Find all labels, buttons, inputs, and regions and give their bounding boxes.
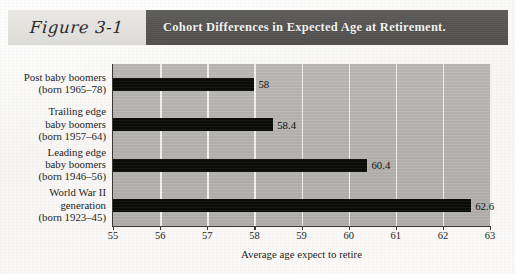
category-label: Leading edgebaby boomers(born 1946–56) <box>39 146 106 183</box>
y-axis-category-labels: Post baby boomers(born 1965–78)Trailing … <box>0 64 110 226</box>
bar-value-label: 58.4 <box>277 120 296 131</box>
x-tick-mark <box>396 226 397 230</box>
category-label-line: Leading edge <box>39 146 106 158</box>
category-label-line: (born 1923–45) <box>39 211 106 223</box>
x-tick-mark <box>443 226 444 230</box>
category-label-line: Trailing edge <box>39 105 106 117</box>
plot-area: 5858.460.462.6 <box>113 64 490 226</box>
category-label: Post baby boomers(born 1965–78) <box>24 71 106 95</box>
category-label: World War IIgeneration(born 1923–45) <box>39 186 106 223</box>
x-tick-mark <box>490 226 491 230</box>
category-label-line: (born 1965–78) <box>24 83 106 95</box>
figure-title-box: Cohort Differences in Expected Age at Re… <box>146 10 508 45</box>
bar <box>113 159 367 172</box>
category-label-line: World War II <box>39 186 106 198</box>
x-axis-title: Average age expect to retire <box>113 248 490 260</box>
x-tick-label: 61 <box>391 231 402 242</box>
category-label-line: baby boomers <box>39 118 106 130</box>
x-tick-label: 62 <box>438 231 449 242</box>
x-tick-mark <box>113 226 114 230</box>
bar-value-label: 58 <box>258 79 269 90</box>
category-label-line: generation <box>39 199 106 211</box>
category-label-line: baby boomers <box>39 158 106 170</box>
x-tick-mark <box>302 226 303 230</box>
x-tick-label: 56 <box>155 231 166 242</box>
bar-value-label: 62.6 <box>475 201 494 212</box>
x-tick-label: 58 <box>249 231 260 242</box>
x-tick-mark <box>160 226 161 230</box>
figure-header-band: Figure 3-1 Cohort Differences in Expecte… <box>8 10 508 45</box>
x-tick-mark <box>207 226 208 230</box>
category-label-line: (born 1946–56) <box>39 170 106 182</box>
category-label: Trailing edgebaby boomers(born 1957–64) <box>39 105 106 142</box>
figure-page: Figure 3-1 Cohort Differences in Expecte… <box>0 0 515 274</box>
x-tick-label: 55 <box>108 231 119 242</box>
bar <box>113 199 471 212</box>
bar <box>113 78 254 91</box>
bar <box>113 118 273 131</box>
category-label-line: Post baby boomers <box>24 71 106 83</box>
x-tick-label: 60 <box>343 231 354 242</box>
chart-region: Post baby boomers(born 1965–78)Trailing … <box>0 56 515 274</box>
page-title: Cohort Differences in Expected Age at Re… <box>146 20 446 35</box>
x-tick-label: 63 <box>485 231 496 242</box>
bar-value-label: 60.4 <box>371 160 390 171</box>
x-tick-label: 57 <box>202 231 213 242</box>
figure-number-label: Figure 3-1 <box>30 18 125 37</box>
x-tick-label: 59 <box>296 231 307 242</box>
x-tick-mark <box>254 226 255 230</box>
figure-number-box: Figure 3-1 <box>8 10 146 45</box>
category-label-line: (born 1957–64) <box>39 130 106 142</box>
x-tick-mark <box>349 226 350 230</box>
